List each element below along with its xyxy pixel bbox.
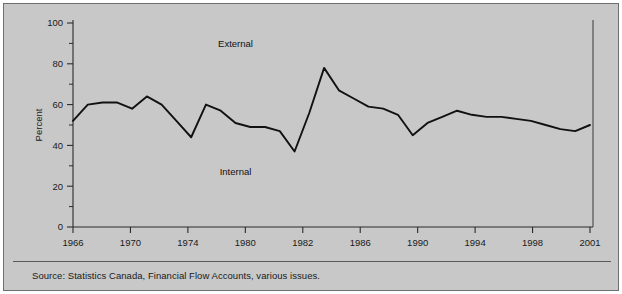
y-tick-label: 20 — [52, 181, 63, 192]
x-tick-label: 1980 — [235, 237, 256, 248]
x-tick-label: 1974 — [177, 237, 198, 248]
y-tick-label: 60 — [52, 99, 63, 110]
x-tick-label: 1982 — [292, 237, 313, 248]
y-tick-label: 100 — [47, 17, 63, 28]
x-tick-label: 1986 — [350, 237, 371, 248]
y-tick-label: 0 — [58, 221, 63, 232]
x-tick-label: 1998 — [522, 237, 543, 248]
region-label-internal: Internal — [220, 166, 252, 177]
x-tick-label: 1990 — [407, 237, 428, 248]
x-tick-label: 1966 — [62, 237, 83, 248]
x-tick-label: 1970 — [120, 237, 141, 248]
y-tick-label: 80 — [52, 58, 63, 69]
x-tick-label: 2001 — [579, 237, 600, 248]
series-line-external — [73, 68, 590, 152]
source-divider — [13, 261, 611, 262]
x-tick-label: 1994 — [465, 237, 486, 248]
y-tick-label: 40 — [52, 140, 63, 151]
y-axis-title: Percent — [33, 108, 44, 141]
chart-plot-area: 020406080100Percent196619701974198019821… — [4, 4, 620, 258]
region-label-external: External — [218, 38, 253, 49]
figure-panel: 020406080100Percent196619701974198019821… — [3, 3, 619, 291]
source-note: Source: Statistics Canada, Financial Flo… — [32, 270, 320, 281]
line-chart: 020406080100Percent196619701974198019821… — [4, 4, 620, 258]
